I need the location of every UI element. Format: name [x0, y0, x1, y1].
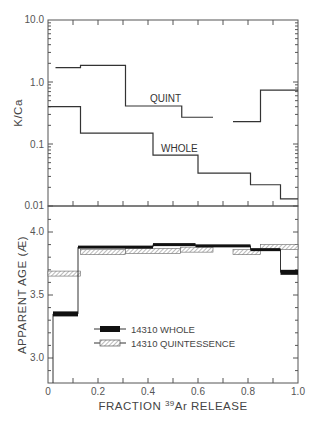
legend: 14310 WHOLE 14310 QUINTESSENCE — [94, 324, 235, 349]
y-tick-3-0: 3.0 — [30, 352, 44, 363]
y-tick-10: 10.0 — [25, 14, 45, 25]
legend-swatch-hatched — [100, 340, 120, 346]
x-tick-1-0: 1.0 — [291, 386, 305, 397]
whole-step — [251, 248, 281, 251]
x-tick-0-2: 0.2 — [91, 386, 105, 397]
x-tick-labels: 0 0.2 0.4 0.6 0.8 1.0 — [45, 386, 305, 397]
legend-label-quintessence: 14310 QUINTESSENCE — [131, 338, 235, 349]
top-y-axis-title: K/Ca — [12, 99, 24, 127]
top-panel: 10.0 1.0 0.1 0.01 K/Ca QUINT WHOLE — [12, 14, 298, 211]
y-tick-3-5: 3.5 — [30, 289, 44, 300]
series-label-quint: QUINT — [150, 93, 181, 104]
series-label-whole: WHOLE — [161, 143, 198, 154]
y-tick-0-01: 0.01 — [25, 200, 45, 211]
legend-label-whole: 14310 WHOLE — [131, 324, 195, 335]
bottom-y-axis-title: APPARENT AGE (Æ) — [16, 236, 28, 354]
x-axis-title-suffix: Ar RELEASE — [175, 400, 248, 412]
x-tick-0-8: 0.8 — [241, 386, 255, 397]
x-axis-title-prefix: FRACTION — [98, 400, 164, 412]
quintessence-step — [81, 250, 126, 255]
x-tick-0-4: 0.4 — [141, 386, 155, 397]
quintessence-step — [181, 247, 214, 252]
bottom-series — [48, 243, 298, 383]
quintessence-step — [48, 271, 81, 276]
x-axis-title: FRACTION 39Ar RELEASE — [98, 399, 247, 412]
whole-outline — [53, 245, 298, 383]
y-tick-0-1: 0.1 — [30, 139, 44, 150]
legend-item-whole: 14310 WHOLE — [94, 324, 195, 335]
whole-step — [78, 246, 153, 249]
top-y-tick-labels: 10.0 1.0 0.1 0.01 — [25, 14, 45, 211]
bottom-panel: 4.0 3.5 3.0 0 0.2 0.4 0.6 0.8 1.0 APPARE… — [16, 206, 305, 412]
bottom-y-tick-labels: 4.0 3.5 3.0 — [30, 226, 44, 363]
whole-step — [196, 244, 251, 247]
top-series — [48, 65, 298, 199]
x-tick-0: 0 — [45, 386, 51, 397]
x-tick-0-6: 0.6 — [191, 386, 205, 397]
whole-step — [281, 270, 299, 275]
legend-swatch-solid — [100, 326, 120, 332]
quintessence-step — [126, 248, 181, 253]
whole-step — [153, 243, 196, 246]
legend-item-quintessence: 14310 QUINTESSENCE — [94, 338, 235, 349]
bottom-plot-frame — [48, 206, 298, 383]
y-tick-1: 1.0 — [30, 77, 44, 88]
whole-step — [53, 311, 78, 316]
x-axis-title-superscript: 39 — [165, 399, 175, 408]
figure: 10.0 1.0 0.1 0.01 K/Ca QUINT WHOLE 4.0 3… — [0, 0, 318, 426]
y-tick-4-0: 4.0 — [30, 226, 44, 237]
